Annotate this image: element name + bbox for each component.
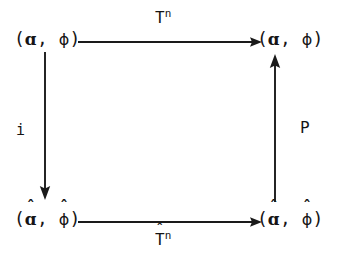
right-arrow-up xyxy=(266,52,284,202)
label-exponent: n xyxy=(165,229,172,242)
hat-accent-icon: ˆ xyxy=(157,222,164,235)
comma: , xyxy=(280,29,292,49)
commutative-diagram: (ɑ, ϕ) (ɑ, ϕ) (ˆɑ, ˆϕ) (ˆɑ, ˆϕ) Tn ˆTn i… xyxy=(0,0,341,267)
label-exponent: n xyxy=(165,7,172,20)
object-symbol-hatted: ˆɑ xyxy=(268,211,280,228)
left-arrow-label: i xyxy=(16,123,25,138)
map-symbol-hatted: ˆϕ xyxy=(59,211,70,228)
map-symbol-hatted: ˆϕ xyxy=(302,211,313,228)
comma: , xyxy=(280,209,292,229)
node-top-right: (ɑ, ϕ) xyxy=(257,30,324,48)
object-symbol-fraktur-a: ɑ xyxy=(268,32,280,48)
object-symbol-fraktur-a: ɑ xyxy=(25,212,37,228)
top-arrow-right xyxy=(78,34,264,50)
node-bottom-left: (ˆɑ, ˆϕ) xyxy=(14,210,81,228)
top-arrow-label: Tn xyxy=(155,10,171,26)
left-arrow-down xyxy=(36,52,54,202)
map-symbol-phi: ϕ xyxy=(302,30,313,49)
close-paren: ) xyxy=(313,208,324,229)
map-symbol-phi: ϕ xyxy=(59,30,70,49)
right-arrow-label: P xyxy=(300,120,310,136)
label-base: P xyxy=(300,118,310,137)
hat-accent-icon: ˆ xyxy=(60,200,68,215)
bottom-arrow-right xyxy=(78,214,264,230)
label-base: i xyxy=(16,121,25,139)
object-symbol-fraktur-a: ɑ xyxy=(268,212,280,228)
node-bottom-right: (ˆɑ, ˆϕ) xyxy=(257,210,324,228)
object-symbol-hatted: ˆɑ xyxy=(25,211,37,228)
label-base: T xyxy=(155,8,165,27)
open-paren: ( xyxy=(14,208,25,229)
comma: , xyxy=(37,29,49,49)
bottom-arrow-label: ˆTn xyxy=(155,232,171,248)
object-symbol-fraktur-a: ɑ xyxy=(25,32,37,48)
close-paren: ) xyxy=(313,28,324,49)
comma: , xyxy=(37,209,49,229)
node-top-left: (ɑ, ϕ) xyxy=(14,30,81,48)
label-base-hatted: ˆT xyxy=(155,232,165,248)
hat-accent-icon: ˆ xyxy=(303,200,311,215)
open-paren: ( xyxy=(14,28,25,49)
